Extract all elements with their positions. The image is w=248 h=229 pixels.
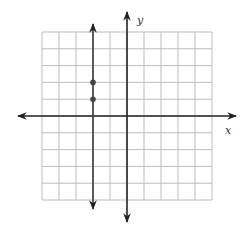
point-neg2-1 xyxy=(90,96,96,102)
y-axis-label: y xyxy=(136,14,144,27)
x-axis-label: x xyxy=(225,124,232,137)
coordinate-plane: y x xyxy=(0,0,248,229)
point-neg2-2 xyxy=(90,80,96,86)
